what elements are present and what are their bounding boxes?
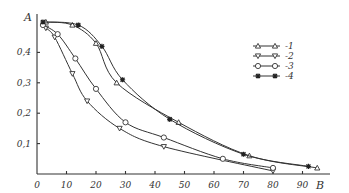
star-marker-icon [120, 77, 125, 82]
x-tick-label: 10 [61, 180, 73, 190]
legend-label: -4 [285, 71, 294, 81]
circle-marker-icon [272, 63, 277, 68]
x-tick-label: 80 [267, 180, 279, 190]
series-4 [40, 19, 311, 169]
curve-line [46, 22, 317, 168]
star-marker-icon [306, 164, 311, 169]
x-tick-label: 70 [238, 180, 250, 190]
y-tick-label: 0,3 [17, 78, 32, 88]
triangle-down-marker-icon [70, 72, 75, 77]
y-tick-label: 0,2 [17, 108, 32, 118]
y-tick-label: 0,4 [17, 47, 32, 57]
axes: 01020304050607080900,10,20,30,4AB [17, 11, 330, 192]
legend-label: -1 [285, 41, 294, 51]
series-3 [40, 22, 275, 170]
curve-line [43, 25, 273, 168]
x-tick-label: 0 [34, 180, 40, 190]
x-tick-label: 90 [297, 180, 309, 190]
star-marker-icon [167, 117, 172, 122]
star-marker-icon [241, 152, 246, 157]
star-marker-icon [99, 44, 104, 49]
x-tick-label: 20 [89, 180, 102, 190]
x-tick-label: 60 [208, 180, 220, 190]
series-2 [43, 26, 275, 174]
x-tick-label: 30 [120, 180, 132, 190]
curves [40, 19, 320, 173]
legend-item: -4 [253, 71, 294, 81]
circle-marker-icon [123, 120, 128, 125]
circle-marker-icon [255, 63, 260, 68]
series-1 [43, 19, 320, 170]
legend-item: -2 [253, 51, 294, 61]
x-tick-label: 40 [148, 180, 161, 190]
circle-marker-icon [55, 32, 60, 37]
chart-canvas: 01020304050607080900,10,20,30,4AB -1-2-3… [0, 0, 349, 193]
legend-label: -2 [285, 51, 294, 61]
circle-marker-icon [73, 56, 78, 61]
legend: -1-2-3-4 [253, 41, 294, 81]
legend-item: -1 [253, 41, 294, 51]
y-axis-label: A [23, 11, 32, 24]
circle-marker-icon [161, 135, 166, 140]
legend-label: -3 [285, 61, 294, 71]
star-marker-icon [40, 19, 45, 24]
x-tick-label: 50 [179, 180, 191, 190]
x-axis-label: B [315, 179, 324, 192]
star-marker-icon [255, 73, 260, 78]
triangle-down-marker-icon [117, 126, 122, 131]
circle-marker-icon [270, 165, 275, 170]
circle-marker-icon [93, 86, 98, 91]
star-marker-icon [76, 22, 81, 27]
circle-marker-icon [220, 156, 225, 161]
curve-line [46, 28, 273, 171]
y-tick-label: 0,1 [17, 139, 31, 149]
star-marker-icon [272, 73, 277, 78]
legend-item: -3 [253, 61, 294, 71]
